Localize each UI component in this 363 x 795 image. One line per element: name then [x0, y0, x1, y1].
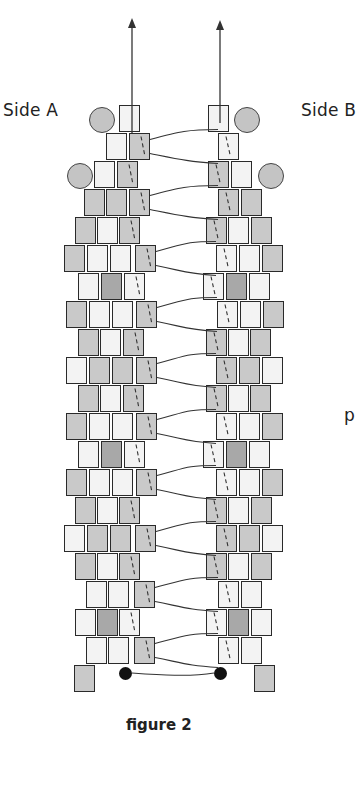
figure-caption: figure 2 — [126, 716, 192, 734]
thread-path-overlay — [0, 0, 363, 795]
